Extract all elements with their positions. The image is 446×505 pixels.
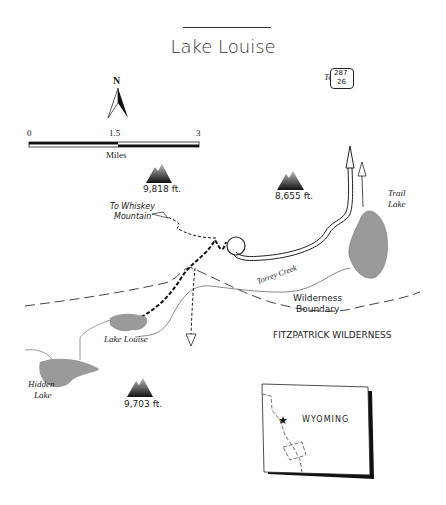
north-arrow-icon: [108, 88, 128, 118]
scale-tick-2: 3: [196, 128, 201, 138]
boundary-label: Wilderness: [293, 293, 342, 303]
whiskey-label: Mountain: [114, 212, 151, 221]
scale-tick-0: 0: [27, 128, 32, 138]
route-shield-icon: 287 26: [330, 68, 354, 89]
star-icon: ★: [278, 414, 288, 427]
lake-label: Lake Louise: [104, 334, 148, 344]
lake-label: Hidden: [28, 379, 55, 389]
arrow-north-icon: [358, 162, 366, 176]
lake-label: Lake: [34, 390, 52, 400]
peak-elevation: 8,655 ft.: [275, 191, 313, 201]
scale-unit: Miles: [106, 150, 127, 160]
inset-map: ★: [262, 384, 374, 479]
highway-road: [234, 146, 354, 260]
whiskey-label: To Whiskey: [110, 202, 155, 211]
mountain-icon: [146, 164, 172, 183]
inset-state-label: WYOMING: [302, 415, 349, 424]
arrow-south-icon: [186, 334, 196, 346]
north-label: N: [113, 75, 120, 86]
peak-elevation: 9,818 ft.: [143, 184, 181, 194]
trail-whiskey: [165, 216, 216, 238]
lake-louise: [110, 314, 147, 331]
wilderness-label: FITZPATRICK WILDERNESS: [273, 330, 392, 340]
trail-lake: [349, 211, 388, 278]
lake-label: Trail: [388, 188, 406, 198]
boundary-label: Boundary: [296, 304, 339, 314]
route-number: 287: [334, 69, 347, 77]
map-canvas: ★: [0, 0, 446, 505]
scale-bar: [29, 142, 199, 147]
trail-south: [191, 268, 195, 335]
lake-label: Lake: [388, 199, 406, 209]
hiking-trail: [141, 240, 226, 317]
arrow-icon: [152, 212, 168, 218]
scale-tick-1: 1.5: [109, 128, 120, 138]
mountain-icon: [127, 378, 153, 397]
mountain-icon: [277, 171, 304, 190]
route-number: 26: [337, 78, 346, 86]
peak-elevation: 9,703 ft.: [124, 399, 162, 409]
